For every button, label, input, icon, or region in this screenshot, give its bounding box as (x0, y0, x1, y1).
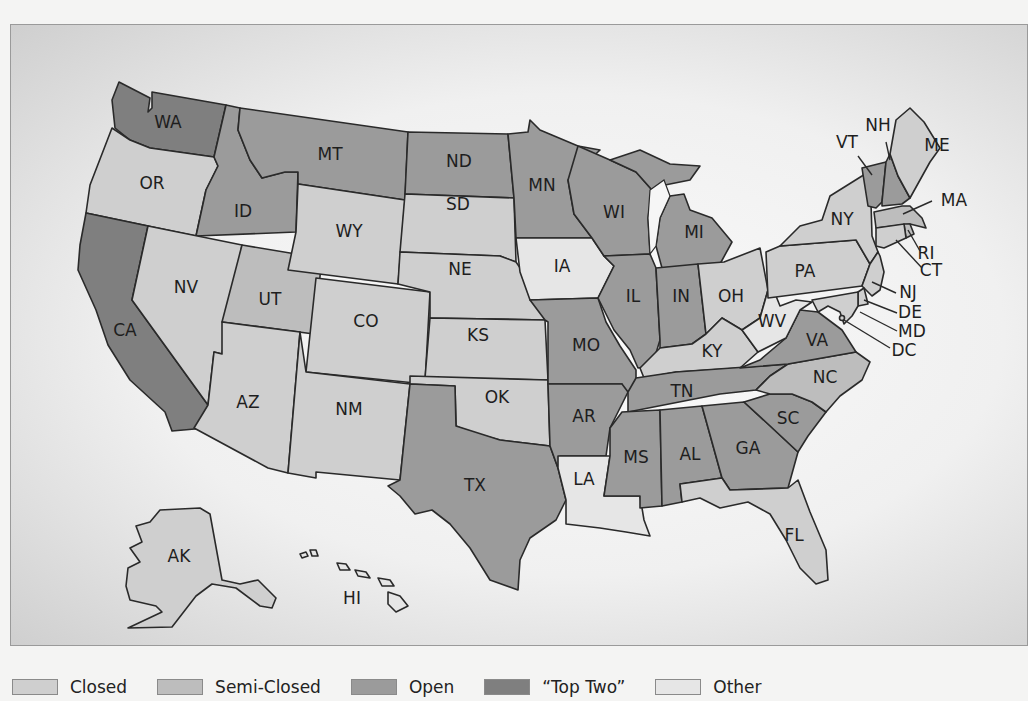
label-OR: OR (139, 173, 164, 193)
label-NC: NC (813, 367, 838, 387)
label-FL: FL (784, 525, 804, 545)
label-HI: HI (343, 588, 361, 608)
label-SC: SC (777, 408, 800, 428)
legend-item-semi-closed: Semi-Closed (157, 677, 321, 697)
label-MA: MA (941, 190, 968, 210)
legend-label-open: Open (409, 677, 454, 697)
label-WA: WA (154, 112, 182, 132)
label-MD: MD (898, 321, 926, 341)
label-NH: NH (865, 115, 891, 135)
legend-item-top-two: “Top Two” (484, 677, 625, 697)
label-AL: AL (679, 444, 701, 464)
label-ME: ME (924, 135, 949, 155)
label-GA: GA (736, 438, 761, 458)
label-NY: NY (830, 209, 854, 229)
label-TX: TX (463, 475, 486, 495)
legend-swatch-other (655, 679, 701, 695)
state-AK[interactable] (126, 508, 276, 628)
legend-label-semi-closed: Semi-Closed (215, 677, 321, 697)
label-MN: MN (528, 175, 555, 195)
label-NJ: NJ (899, 282, 917, 302)
legend-item-open: Open (351, 677, 454, 697)
label-MO: MO (572, 335, 600, 355)
label-CO: CO (353, 311, 378, 331)
state-FL[interactable] (680, 478, 828, 584)
label-OK: OK (485, 387, 510, 407)
label-VA: VA (806, 330, 829, 350)
label-NV: NV (174, 277, 199, 297)
label-AR: AR (572, 406, 596, 426)
label-NM: NM (335, 399, 362, 419)
legend-label-top-two: “Top Two” (542, 677, 625, 697)
label-VT: VT (836, 132, 859, 152)
label-MT: MT (317, 144, 343, 164)
legend-label-closed: Closed (70, 677, 127, 697)
legend-swatch-closed (12, 679, 58, 695)
label-AK: AK (168, 546, 192, 566)
label-SD: SD (446, 194, 470, 214)
state-DC[interactable] (840, 316, 845, 321)
label-WI: WI (603, 202, 625, 222)
legend-swatch-open (351, 679, 397, 695)
label-PA: PA (795, 261, 816, 281)
legend-label-other: Other (713, 677, 761, 697)
label-LA: LA (573, 469, 595, 489)
label-IL: IL (626, 286, 641, 306)
legend-item-other: Other (655, 677, 761, 697)
state-CO[interactable] (306, 278, 430, 384)
legend-item-closed: Closed (12, 677, 127, 697)
label-CT: CT (920, 260, 943, 280)
label-AZ: AZ (236, 392, 259, 412)
us-map: WA OR CA ID MT NV UT WY AZ CO NM ND SD N… (0, 0, 1028, 701)
label-DC: DC (892, 340, 917, 360)
state-IN[interactable] (656, 264, 706, 348)
state-CT[interactable] (876, 224, 906, 248)
legend-swatch-top-two (484, 679, 530, 695)
label-IN: IN (672, 286, 690, 306)
legend-swatch-semi-closed (157, 679, 203, 695)
label-MI: MI (684, 222, 704, 242)
label-TN: TN (669, 381, 693, 401)
label-OH: OH (718, 286, 744, 306)
label-DE: DE (898, 302, 922, 322)
label-NE: NE (448, 259, 471, 279)
state-PA[interactable] (766, 240, 870, 298)
label-WV: WV (758, 311, 787, 331)
label-MS: MS (623, 447, 648, 467)
legend: Closed Semi-Closed Open “Top Two” Other (12, 677, 792, 697)
label-UT: UT (259, 289, 282, 309)
label-CA: CA (113, 320, 137, 340)
label-IA: IA (554, 256, 571, 276)
label-ND: ND (446, 151, 472, 171)
label-KY: KY (702, 341, 724, 361)
label-KS: KS (467, 325, 489, 345)
label-WY: WY (335, 221, 363, 241)
label-ID: ID (234, 201, 252, 221)
